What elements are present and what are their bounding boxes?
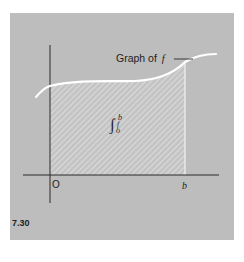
figure-number: 7.30 xyxy=(12,218,30,228)
origin-label: O xyxy=(52,179,60,190)
integral-figure: Graph of f ∫ b o f O b 7.30 xyxy=(0,0,244,262)
curve-label: Graph of f xyxy=(116,52,167,64)
b-label: b xyxy=(182,180,187,191)
